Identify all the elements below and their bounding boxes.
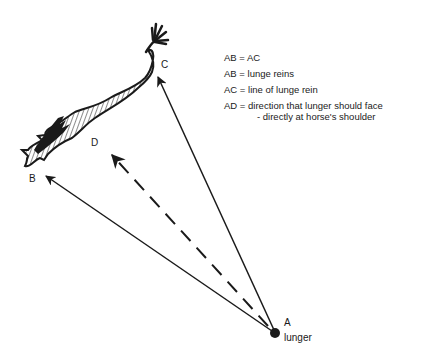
horse-tail bbox=[146, 24, 168, 52]
label-a: A bbox=[284, 317, 291, 329]
label-c: C bbox=[161, 59, 168, 71]
legend-item: AB = lunge reins bbox=[224, 66, 383, 82]
lunger-dot bbox=[270, 328, 280, 338]
legend: AB = AC AB = lunge reins AC = line of lu… bbox=[224, 50, 383, 125]
legend-item: AB = AC bbox=[224, 50, 383, 66]
label-d: D bbox=[91, 137, 98, 149]
legend-item: AC = line of lunge rein bbox=[224, 82, 383, 98]
label-lunger: lunger bbox=[284, 332, 312, 344]
line-ad bbox=[112, 155, 268, 326]
label-b: B bbox=[29, 173, 36, 185]
